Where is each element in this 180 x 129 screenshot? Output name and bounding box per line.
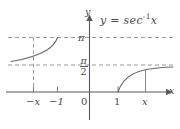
y-tick-label-pi-half: π 2 — [78, 56, 89, 76]
fraction-denominator: 2 — [78, 67, 89, 76]
x-tick-label-negative-one: −1 — [49, 97, 64, 107]
sec-inverse-graph-figure: y = sec-1x y x π π 2 −x −1 0 1 x — [0, 0, 180, 129]
y-axis-label: y — [85, 7, 90, 17]
equation-label-base: y = sec — [100, 14, 143, 27]
equation-label: y = sec-1x — [100, 13, 157, 26]
equation-label-variable: x — [151, 14, 158, 27]
curve-left-branch — [11, 38, 58, 62]
x-tick-label-one: 1 — [114, 97, 120, 107]
fraction-numerator: π — [78, 56, 89, 65]
x-axis-label: x — [169, 86, 174, 96]
y-tick-label-pi: π — [78, 33, 85, 43]
equation-label-exponent: -1 — [143, 12, 151, 21]
x-tick-label-x: x — [142, 97, 148, 107]
x-tick-label-zero: 0 — [81, 97, 87, 107]
x-tick-label-negative-x: −x — [26, 97, 40, 107]
